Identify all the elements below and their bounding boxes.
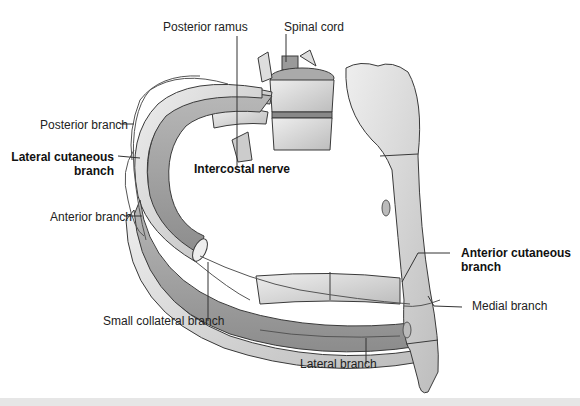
label-anterior-branch: Anterior branch xyxy=(50,210,132,224)
label-small-collateral-branch: Small collateral branch xyxy=(103,314,224,328)
label-spinal-cord: Spinal cord xyxy=(284,20,344,34)
label-anterior-cutaneous-branch: Anterior cutaneous branch xyxy=(461,246,571,274)
label-lateral-cutaneous-branch: Lateral cutaneous branch xyxy=(6,150,114,178)
anatomy-figure: Posterior ramus Spinal cord Posterior br… xyxy=(0,0,580,398)
label-medial-branch: Medial branch xyxy=(472,299,547,313)
label-posterior-branch: Posterior branch xyxy=(40,118,128,132)
illustration xyxy=(0,0,580,398)
label-posterior-ramus: Posterior ramus xyxy=(163,20,248,34)
bottom-strip xyxy=(0,398,580,406)
label-intercostal-nerve: Intercostal nerve xyxy=(194,162,290,176)
label-lateral-branch: Lateral branch xyxy=(300,357,377,371)
